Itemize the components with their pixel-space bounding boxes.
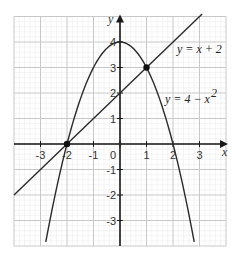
graph: -3-2-10123-3-2-11234xyy = x + 2y = 4 − x… xyxy=(0,0,238,259)
x-tick-label: -1 xyxy=(89,149,99,161)
equation-label-line: y = x + 2 xyxy=(176,42,222,56)
y-tick-label: 4 xyxy=(110,36,116,48)
y-tick-label: 1 xyxy=(110,113,116,125)
equation-label-parabola: y = 4 − x xyxy=(164,92,211,106)
x-tick-label: 1 xyxy=(143,149,149,161)
y-tick-label: 3 xyxy=(110,62,116,74)
curves xyxy=(14,14,202,242)
y-axis-label: y xyxy=(107,12,114,26)
x-tick-label: -3 xyxy=(36,149,46,161)
y-axis-arrow-icon xyxy=(116,15,124,23)
x-axis-label: x xyxy=(221,145,228,159)
x-tick-label: 0 xyxy=(110,149,116,161)
intersection-point xyxy=(143,64,149,70)
x-tick-label: 2 xyxy=(170,149,176,161)
x-tick-label: 3 xyxy=(196,149,202,161)
y-tick-label: -2 xyxy=(106,189,116,201)
intersection-point xyxy=(64,141,70,147)
equation-label-exponent: 2 xyxy=(211,86,217,100)
y-tick-label: 2 xyxy=(110,87,116,99)
y-tick-label: -3 xyxy=(106,215,116,227)
y-tick-label: -1 xyxy=(106,164,116,176)
x-tick-label: -2 xyxy=(62,149,72,161)
